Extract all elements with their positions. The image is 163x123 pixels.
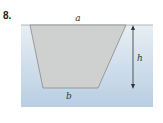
label-a: a xyxy=(75,13,80,23)
label-h: h xyxy=(137,53,143,63)
trapezoid-dam-diagram: a b h xyxy=(0,0,163,123)
label-b: b xyxy=(66,91,72,101)
